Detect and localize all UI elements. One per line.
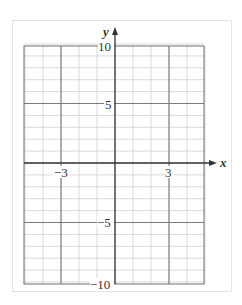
y-axis-label: y [101, 24, 109, 39]
x-axis-label: x [219, 155, 227, 170]
y-axis-arrow-icon [112, 27, 118, 35]
y-tick-neg5: −5 [97, 215, 111, 230]
grid-border [24, 46, 204, 284]
y-tick-5: 5 [105, 97, 112, 112]
coordinate-grid: x y 10 5 −5 −10 −3 3 [0, 0, 242, 305]
x-tick-neg3: −3 [54, 165, 68, 180]
x-axis-arrow-icon [209, 160, 217, 166]
y-tick-10: 10 [98, 39, 111, 54]
y-tick-neg10: −10 [90, 277, 110, 292]
major-gridlines [24, 46, 204, 284]
x-tick-3: 3 [165, 165, 172, 180]
